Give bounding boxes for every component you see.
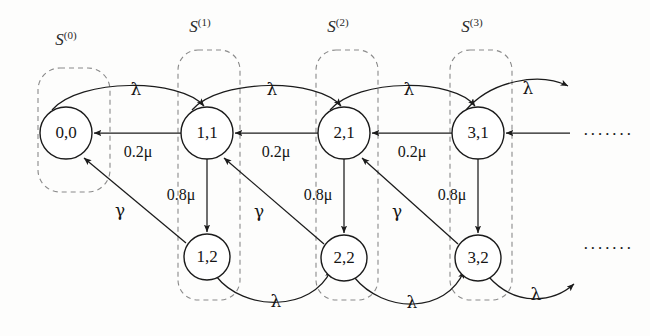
- lambda-00-11: [52, 85, 204, 110]
- mu-high-21-22-rate: 0.8μ: [304, 186, 333, 204]
- set-label-0: S(0): [55, 29, 77, 49]
- lambda-32-next-rate: λ: [531, 284, 542, 304]
- state-node-1-2[interactable]: 1,2: [184, 234, 230, 280]
- set-label-3: S(3): [461, 16, 483, 36]
- gamma-32-21-rate: γ: [392, 201, 402, 221]
- lambda-11-21-rate: λ: [267, 79, 278, 99]
- set-label-1: S(1): [189, 16, 211, 36]
- state-node-label: 2,1: [333, 123, 354, 142]
- lambda-12-22-rate: λ: [271, 291, 282, 311]
- state-node-3-1[interactable]: 3,1: [452, 107, 504, 159]
- lambda-31-next: [466, 79, 568, 110]
- lambda-31-next-rate: λ: [523, 78, 534, 98]
- ellipsis-top: ·······: [583, 125, 633, 144]
- state-node-label: 0,0: [55, 123, 76, 142]
- lambda-22-32-rate: λ: [407, 292, 418, 312]
- state-transition-diagram: λλλλ0.2μ0.2μ0.2μ0.8μ0.8μ0.8μγγγλλλ 0,01,…: [0, 0, 650, 336]
- continuation-ellipses: ··············: [583, 125, 633, 258]
- mu-low-31-21-rate: 0.2μ: [398, 143, 427, 161]
- state-node-0-0[interactable]: 0,0: [40, 107, 92, 159]
- mu-high-11-12-rate: 0.8μ: [167, 186, 196, 204]
- state-node-label: 2,2: [333, 248, 354, 267]
- state-node-2-2[interactable]: 2,2: [321, 235, 367, 281]
- state-node-2-1[interactable]: 2,1: [318, 107, 370, 159]
- state-node-3-2[interactable]: 3,2: [455, 235, 501, 281]
- mu-low-11-00-rate: 0.2μ: [124, 143, 153, 161]
- gamma-12-00-rate: γ: [115, 200, 125, 220]
- state-node-label: 3,1: [467, 123, 488, 142]
- state-node-1-1[interactable]: 1,1: [181, 107, 233, 159]
- mu-high-31-32-rate: 0.8μ: [438, 186, 467, 204]
- ellipsis-bottom: ·······: [583, 239, 633, 258]
- lambda-00-11-rate: λ: [131, 79, 142, 99]
- state-node-label: 1,2: [196, 247, 217, 266]
- lambda-21-31-rate: λ: [404, 79, 415, 99]
- gamma-22-11-rate: γ: [254, 201, 264, 221]
- state-node-label: 3,2: [467, 248, 488, 267]
- state-node-label: 1,1: [196, 123, 217, 142]
- state-set-labels: S(0)S(1)S(2)S(3): [55, 16, 483, 49]
- set-label-2: S(2): [327, 16, 349, 36]
- diagram-canvas: λλλλ0.2μ0.2μ0.2μ0.8μ0.8μ0.8μγγγλλλ 0,01,…: [0, 0, 650, 336]
- lambda-21-31: [330, 85, 475, 110]
- mu-low-21-11-rate: 0.2μ: [262, 143, 291, 161]
